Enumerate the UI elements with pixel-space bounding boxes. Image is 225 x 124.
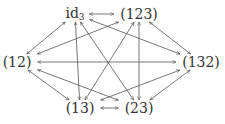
node-label: (12) — [3, 54, 32, 70]
edge-c132-c23 — [150, 70, 190, 100]
node-id3: id3 — [65, 6, 84, 22]
edge-c132-c13 — [101, 70, 180, 100]
edge-c123-c132 — [149, 22, 190, 54]
node-c132: (132) — [182, 55, 220, 69]
node-c123: (123) — [120, 7, 158, 21]
node-label: (123) — [120, 6, 158, 22]
edge-id3-c132 — [89, 20, 180, 54]
edge-c123-c13 — [85, 22, 134, 100]
node-label: id — [65, 5, 78, 21]
node-label: (23) — [125, 100, 154, 116]
edge-c123-c12 — [37, 22, 118, 54]
edges-group — [27, 14, 191, 108]
node-label: (13) — [66, 100, 95, 116]
node-subscript: 3 — [79, 12, 85, 22]
edge-id3-c12 — [27, 22, 66, 54]
node-label: (132) — [182, 54, 220, 70]
edge-c12-c13 — [28, 70, 69, 100]
edge-id3-c13 — [75, 22, 79, 100]
node-c12: (12) — [3, 55, 32, 69]
node-c23: (23) — [125, 101, 154, 115]
node-c13: (13) — [66, 101, 95, 115]
